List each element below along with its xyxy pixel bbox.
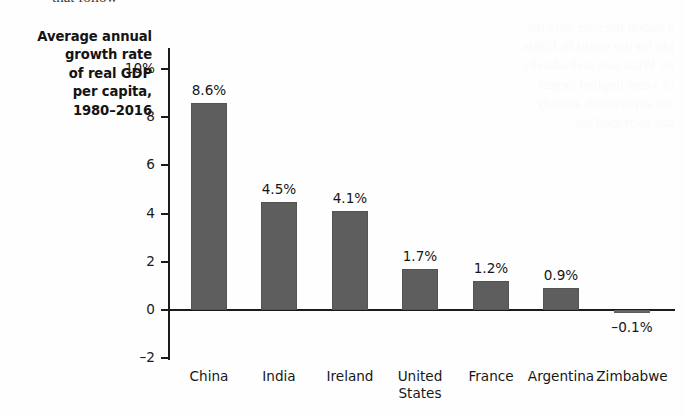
- bar-india: [261, 202, 297, 310]
- bar-value-label: –0.1%: [591, 319, 673, 335]
- y-axis-tick-label: 2: [95, 253, 155, 269]
- y-axis-tick-mark: [161, 164, 170, 166]
- y-axis-tick-label: –2: [95, 349, 155, 365]
- y-axis-tick-mark: [161, 116, 170, 118]
- x-axis-category-line: Zimbabwe: [589, 368, 675, 385]
- bar-value-label: 8.6%: [168, 82, 250, 98]
- bar-value-label: 0.9%: [520, 267, 602, 283]
- bar-china: [191, 103, 227, 310]
- x-axis-category-zimbabwe: Zimbabwe: [589, 368, 675, 385]
- x-axis-category-line: States: [377, 385, 463, 402]
- y-axis-tick-label: 4: [95, 205, 155, 221]
- y-axis-tick-mark: [161, 309, 170, 311]
- bar-ireland: [332, 211, 368, 310]
- bar-argentina: [543, 288, 579, 310]
- gdp-growth-bar-chart-figure: that follow a nation uncover only the pl…: [0, 0, 685, 418]
- y-axis-tick-label: 6: [95, 156, 155, 172]
- bar-value-label: 4.1%: [309, 190, 391, 206]
- y-axis-tick-mark: [161, 213, 170, 215]
- bar-value-label: 1.7%: [379, 248, 461, 264]
- plot-area: 10%86420–2 8.6%4.5%4.1%1.7%1.2%0.9%–0.1%…: [0, 0, 685, 418]
- bar-france: [473, 281, 509, 310]
- y-axis-tick-mark: [161, 357, 170, 359]
- y-axis-tick-mark: [161, 261, 170, 263]
- bar-zimbabwe: [614, 310, 650, 313]
- bar-value-label: 4.5%: [238, 181, 320, 197]
- bar-united-states: [402, 269, 438, 310]
- y-axis-tick-label: 8: [95, 108, 155, 124]
- y-axis-tick-label: 0: [95, 301, 155, 317]
- y-axis-tick-mark: [161, 68, 170, 70]
- y-axis-tick-label: 10%: [95, 60, 155, 76]
